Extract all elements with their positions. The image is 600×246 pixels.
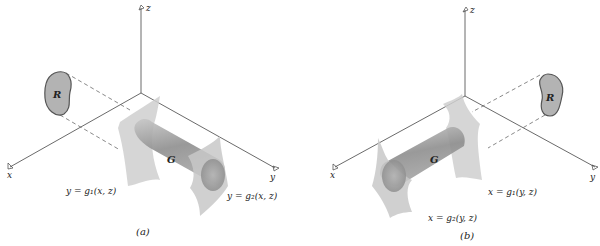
surface-lower-label: x = g₁(y, z) <box>488 187 538 197</box>
caption-a: (a) <box>136 226 150 237</box>
solid-g-label: G <box>430 154 439 165</box>
y-axis <box>465 96 595 167</box>
z-axis-label: z <box>469 5 475 15</box>
y-axis-label: y <box>269 172 276 182</box>
x-axis-label: x <box>330 170 335 180</box>
z-axis-label: z <box>145 3 151 13</box>
cylinder-cap <box>201 159 225 191</box>
z-arrow-icon <box>139 5 144 10</box>
y-arrow-icon <box>273 166 279 171</box>
figure-canvas: z x y R G y = g₁(x, z) y = g₂(x, z) (a) <box>0 0 600 246</box>
region-r-label: R <box>545 92 554 103</box>
region-r-label: R <box>52 89 61 100</box>
cylinder-cap <box>382 160 406 192</box>
caption-b: (b) <box>460 230 474 241</box>
surface-upper-label: y = g₂(x, z) <box>226 191 278 201</box>
y-axis-label: y <box>589 172 596 182</box>
solid-g-label: G <box>167 154 176 165</box>
projection-lines-b <box>472 75 545 148</box>
figure-b: z x y R G x = g₁(y, z) x = g₂(y, z) (b) <box>330 5 598 241</box>
surface-upper-label: x = g₂(y, z) <box>428 213 478 223</box>
surface-lower-label: y = g₁(x, z) <box>65 186 117 196</box>
z-arrow-icon <box>463 7 468 12</box>
figure-a: z x y R G y = g₁(x, z) y = g₂(x, z) (a) <box>7 3 279 237</box>
x-axis-label: x <box>7 170 12 180</box>
